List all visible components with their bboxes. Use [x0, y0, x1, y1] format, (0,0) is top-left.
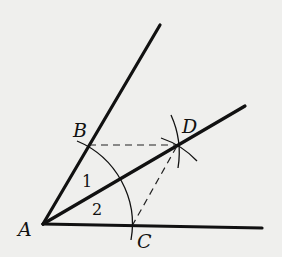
label-d: D — [181, 115, 197, 137]
arc-from-c — [171, 115, 179, 168]
bisector-diagram: A B C D 1 2 — [0, 0, 282, 257]
angle-label-1: 1 — [82, 172, 92, 191]
ray-ab — [43, 25, 160, 224]
angle-label-2: 2 — [92, 200, 102, 219]
label-a: A — [16, 218, 32, 240]
label-b: B — [72, 119, 87, 141]
ray-ac — [43, 224, 262, 228]
label-c: C — [137, 230, 152, 252]
